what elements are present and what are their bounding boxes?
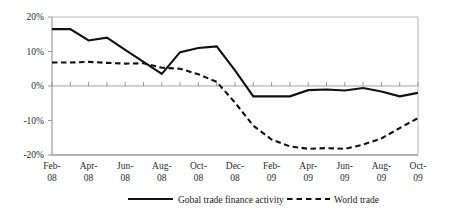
x-axis-ticks [52,82,418,86]
x-tick-label-month: Jun- [337,161,353,171]
x-tick-label-year: 09 [413,173,423,183]
line-chart-svg: 20%10%0%-10%-20% Feb-08Apr-08Jun-08Aug-0… [0,0,450,221]
x-tick-label-month: Apr- [299,161,317,171]
chart-legend: Gobal trade finance activity World trade [128,195,379,205]
y-tick-label: 10% [27,47,45,57]
chart-figure: 20%10%0%-10%-20% Feb-08Apr-08Jun-08Aug-0… [0,0,450,221]
x-tick-label-year: 08 [194,173,204,183]
x-tick-label-year: 08 [230,173,240,183]
x-tick-label-month: Aug- [372,161,392,171]
x-tick-label-year: 09 [377,173,387,183]
x-tick-label-month: Oct- [190,161,207,171]
x-tick-label-month: Jun- [117,161,133,171]
x-tick-label-month: Feb- [263,161,280,171]
x-tick-label-month: Apr- [80,161,98,171]
x-tick-label-month: Aug- [152,161,172,171]
legend-label-world-trade: World trade [334,195,379,205]
y-tick-label: 20% [27,12,45,22]
x-tick-label-month: Oct- [410,161,427,171]
series-world-trade [52,62,418,149]
x-tick-label-month: Dec- [226,161,244,171]
x-axis-labels: Feb-08Apr-08Jun-08Aug-08Oct-08Dec-08Feb-… [43,161,426,183]
series-group [52,29,418,149]
y-tick-label: -20% [23,150,44,160]
y-axis-ticks: 20%10%0%-10%-20% [23,12,52,160]
x-tick-label-year: 08 [47,173,57,183]
x-tick-label-year: 09 [340,173,350,183]
x-tick-label-year: 08 [157,173,167,183]
legend-label-global-trade-finance-activity: Gobal trade finance activity [178,195,284,205]
x-tick-label-year: 08 [120,173,130,183]
y-tick-label: 0% [31,81,44,91]
x-tick-label-year: 09 [303,173,313,183]
x-tick-label-year: 08 [84,173,94,183]
x-tick-label-month: Feb- [43,161,60,171]
y-tick-label: -10% [23,116,44,126]
x-tick-label-year: 09 [267,173,277,183]
